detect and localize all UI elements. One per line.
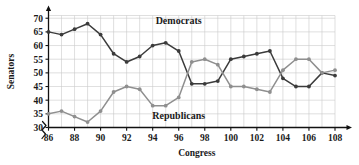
x-tick-label: 100	[224, 133, 239, 143]
x-axis-arrowhead	[347, 125, 353, 130]
data-point	[268, 90, 272, 94]
data-point	[229, 57, 233, 61]
y-tick-label: 50	[34, 68, 44, 78]
data-point	[255, 87, 259, 91]
x-axis-title: Congress	[178, 148, 216, 158]
data-point	[216, 79, 220, 83]
data-point	[203, 82, 207, 86]
data-point	[164, 41, 168, 45]
data-point	[229, 85, 233, 89]
x-tick-label: 102	[250, 133, 265, 143]
data-point	[203, 57, 207, 61]
data-point	[320, 71, 324, 75]
x-tick-label: 88	[70, 133, 80, 143]
x-tick-label: 90	[96, 133, 106, 143]
data-point	[281, 76, 285, 80]
y-tick-label: 65	[34, 27, 44, 37]
data-point	[60, 33, 64, 37]
data-point	[73, 27, 77, 31]
x-tick-label: 86	[44, 133, 54, 143]
data-point	[177, 49, 181, 53]
data-point	[294, 85, 298, 89]
data-point	[73, 115, 77, 119]
y-tick-label: 60	[34, 41, 44, 51]
x-tick-label: 98	[200, 133, 210, 143]
data-point	[151, 104, 155, 108]
data-point	[47, 112, 51, 116]
data-point	[242, 85, 246, 89]
data-point	[86, 22, 90, 26]
y-tick-label: 45	[34, 82, 44, 92]
y-tick-label: 70	[34, 14, 44, 24]
data-point	[242, 55, 246, 59]
data-point	[99, 109, 103, 113]
y-axis-title: Senators	[6, 54, 16, 90]
data-point	[164, 104, 168, 108]
data-point	[86, 120, 90, 124]
annotation-republicans: Republicans	[152, 110, 205, 121]
data-point	[138, 87, 142, 91]
y-tick-label: 55	[34, 55, 44, 65]
chart-canvas: 3035404550556065708688909294969810010210…	[0, 0, 359, 165]
data-point	[125, 85, 129, 89]
x-tick-label: 92	[122, 133, 132, 143]
data-point	[333, 68, 337, 72]
data-point	[281, 68, 285, 72]
x-tick-label: 108	[328, 133, 343, 143]
data-point	[255, 52, 259, 56]
x-tick-label: 104	[276, 133, 291, 143]
data-point	[125, 60, 129, 64]
senate-composition-chart: 3035404550556065708688909294969810010210…	[0, 0, 359, 165]
data-point	[112, 90, 116, 94]
y-axis-arrowhead	[46, 6, 51, 12]
y-tick-label: 40	[34, 96, 44, 106]
data-point	[307, 57, 311, 61]
data-point	[216, 63, 220, 67]
data-point	[99, 33, 103, 37]
data-point	[307, 85, 311, 89]
x-tick-label: 96	[174, 133, 184, 143]
y-tick-label: 30	[34, 123, 44, 133]
x-tick-label: 94	[148, 133, 158, 143]
data-point	[190, 60, 194, 64]
data-point	[268, 49, 272, 53]
y-tick-label: 35	[34, 109, 44, 119]
data-point	[190, 82, 194, 86]
data-point	[151, 44, 155, 48]
data-point	[47, 30, 51, 34]
data-point	[333, 74, 337, 78]
data-point	[112, 52, 116, 56]
data-point	[60, 109, 64, 113]
data-point	[177, 96, 181, 100]
x-tick-label: 106	[302, 133, 317, 143]
annotation-democrats: Democrats	[156, 15, 202, 26]
data-point	[138, 55, 142, 59]
data-point	[294, 57, 298, 61]
